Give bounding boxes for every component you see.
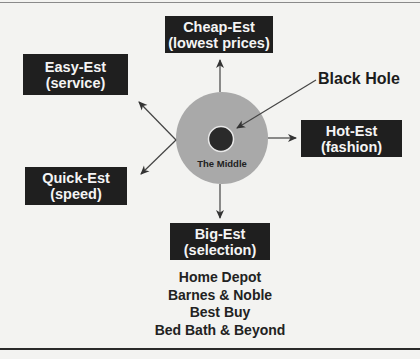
quick-est-title: Quick-Est (25, 170, 127, 186)
easy-est-title: Easy-Est (23, 59, 128, 75)
black-hole-label: Black Hole (318, 70, 400, 88)
store-item: Barnes & Noble (120, 287, 320, 305)
black-hole-circle (209, 127, 234, 152)
easy-est-subtitle: (service) (23, 75, 128, 91)
the-middle-label: The Middle (182, 158, 262, 169)
example-stores-list: Home Depot Barnes & Noble Best Buy Bed B… (120, 269, 320, 339)
quick-est-subtitle: (speed) (25, 186, 127, 202)
easy-est-box: Easy-Est (service) (23, 54, 128, 95)
hot-est-subtitle: (fashion) (301, 139, 402, 155)
arrow-to-quick (141, 140, 176, 174)
cheap-est-title: Cheap-Est (165, 19, 273, 35)
store-item: Best Buy (120, 304, 320, 322)
store-item: Bed Bath & Beyond (120, 322, 320, 340)
hot-est-title: Hot-Est (301, 123, 402, 139)
cheap-est-subtitle: (lowest prices) (165, 35, 273, 51)
hot-est-box: Hot-Est (fashion) (301, 120, 402, 157)
arrow-to-easy (139, 102, 176, 140)
big-est-subtitle: (selection) (170, 242, 270, 258)
bottom-rule (0, 348, 420, 350)
big-est-title: Big-Est (170, 226, 270, 242)
cheap-est-box: Cheap-Est (lowest prices) (165, 16, 273, 53)
big-est-box: Big-Est (selection) (170, 223, 270, 260)
quick-est-box: Quick-Est (speed) (25, 167, 127, 205)
store-item: Home Depot (120, 269, 320, 287)
